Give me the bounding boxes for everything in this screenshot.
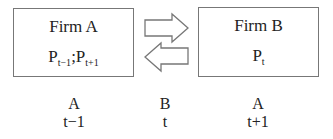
timeline-col-1: A t−1: [44, 95, 104, 131]
timeline-col-2: B t: [135, 95, 195, 131]
timeline-period: t+1: [228, 113, 288, 131]
timeline-period: t−1: [44, 113, 104, 131]
price-base: P: [252, 46, 261, 65]
price-subscript: t: [262, 56, 265, 67]
left-arrow-icon: [145, 43, 188, 71]
firm-b-title: Firm B: [199, 16, 318, 36]
timeline-period: t: [135, 113, 195, 131]
timeline-firm: A: [44, 95, 104, 113]
timeline-firm: B: [135, 95, 195, 113]
firm-b-price: Pt: [199, 46, 318, 67]
right-arrow-icon: [145, 14, 188, 42]
firm-b-box: Firm B Pt: [198, 7, 319, 77]
timeline-col-3: A t+1: [228, 95, 288, 131]
timeline-firm: A: [228, 95, 288, 113]
